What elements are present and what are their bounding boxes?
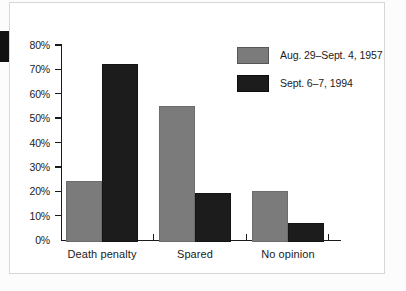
bar-group	[66, 47, 138, 242]
legend-swatch-series-a	[237, 47, 269, 64]
y-axis-tick	[55, 191, 62, 192]
y-axis-tick-label: 70%	[16, 63, 50, 75]
page-background: 80%70%60%50%40%30%20%10%0% Death penalty…	[0, 0, 406, 291]
chart-legend: Aug. 29–Sept. 4, 1957 Sept. 6–7, 1994	[237, 41, 387, 97]
y-axis-tick-label: 20%	[16, 185, 50, 197]
y-axis-tick-label: 60%	[16, 88, 50, 100]
legend-swatch-series-b	[237, 75, 269, 92]
y-axis-tick	[55, 215, 62, 216]
bar	[195, 193, 231, 242]
x-axis-group-separator	[328, 234, 329, 241]
y-axis-tick	[55, 117, 62, 118]
legend-label-series-a: Aug. 29–Sept. 4, 1957	[280, 49, 382, 61]
bar	[288, 223, 324, 243]
bar	[159, 106, 195, 243]
y-axis-tick-labels: 80%70%60%50%40%30%20%10%0%	[16, 3, 50, 275]
page-margin-mark	[0, 31, 9, 62]
bar-group	[159, 47, 231, 242]
x-axis-category-label: No opinion	[230, 248, 346, 260]
y-axis-tick-label: 30%	[16, 161, 50, 173]
bar	[66, 181, 102, 242]
chart-panel: 80%70%60%50%40%30%20%10%0% Death penalty…	[9, 2, 385, 274]
legend-item-series-b: Sept. 6–7, 1994	[237, 69, 387, 97]
bar-chart: 80%70%60%50%40%30%20%10%0% Death penalty…	[10, 3, 386, 275]
y-axis-tick-label: 80%	[16, 39, 50, 51]
x-axis-group-separator	[246, 234, 247, 241]
legend-item-series-a: Aug. 29–Sept. 4, 1957	[237, 41, 387, 69]
y-axis-tick	[55, 142, 62, 143]
x-axis-group-separator	[153, 234, 154, 241]
y-axis-tick-label: 10%	[16, 210, 50, 222]
y-axis-tick	[55, 93, 62, 94]
y-axis-tick	[55, 166, 62, 167]
bar	[252, 191, 288, 242]
y-axis-tick-label: 0%	[16, 234, 50, 246]
legend-label-series-b: Sept. 6–7, 1994	[280, 77, 353, 89]
bar	[102, 64, 138, 242]
y-axis-tick-label: 50%	[16, 112, 50, 124]
y-axis-tick	[55, 69, 62, 70]
y-axis-tick-label: 40%	[16, 137, 50, 149]
y-axis-tick	[55, 44, 62, 45]
